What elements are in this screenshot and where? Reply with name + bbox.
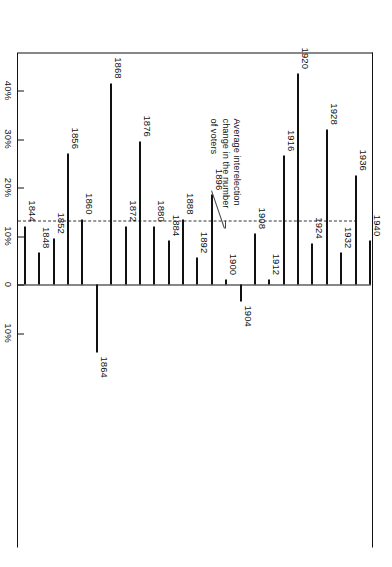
bar-year-label: 1852	[56, 212, 67, 234]
bar-year-label: 1912	[271, 253, 282, 275]
bar-year-label: 1928	[329, 103, 340, 125]
bar-year-label: 1856	[70, 127, 81, 149]
axis-tick-label: 20%	[3, 177, 14, 197]
bar-year-label: 1892	[200, 231, 211, 253]
bar	[326, 129, 328, 284]
bar	[110, 83, 112, 284]
frame-left-border	[18, 52, 373, 53]
bar	[369, 240, 371, 284]
bar-year-label: 1888	[185, 193, 196, 215]
bar	[139, 141, 141, 284]
bar	[125, 226, 127, 284]
bar-year-label: 1932	[343, 226, 354, 248]
bar	[67, 153, 69, 284]
bar	[283, 155, 285, 284]
bar	[82, 219, 84, 284]
zero-baseline	[18, 284, 371, 285]
bar	[297, 73, 299, 284]
bar	[38, 252, 40, 284]
bar-year-label: 1884	[171, 214, 182, 236]
bar	[24, 226, 26, 284]
axis-tick-label: 30%	[3, 129, 14, 149]
bar-year-label: 1924	[315, 217, 326, 239]
bar-year-label: 1880	[156, 200, 167, 222]
axis-tick-label: 0	[3, 281, 14, 286]
bar-year-label: 1904	[243, 305, 254, 327]
chart-figure: 40%30%20%10%010%184418481852185618601864…	[0, 0, 392, 567]
bar	[53, 238, 55, 284]
bar	[240, 284, 242, 301]
bar-year-label: 1860	[85, 193, 96, 215]
bar-year-label: 1844	[27, 200, 38, 222]
axis-tick-label: 10%	[3, 323, 14, 343]
axis-tick	[18, 333, 24, 334]
axis-tick	[18, 139, 24, 140]
frame-top-border	[372, 52, 373, 547]
bar	[254, 233, 256, 284]
bar-year-label: 1876	[142, 115, 153, 137]
bar	[340, 252, 342, 284]
bar	[182, 219, 184, 284]
bar	[153, 226, 155, 284]
bar	[225, 279, 227, 284]
bar-year-label: 1848	[41, 226, 52, 248]
bar-year-label: 1908	[257, 207, 268, 229]
bar-year-label: 1936	[358, 149, 369, 171]
bar	[268, 279, 270, 284]
bar-year-label: 1920	[300, 47, 311, 69]
bar-year-label: 1868	[113, 57, 124, 79]
annotation-leader-segment-2	[225, 220, 226, 228]
axis-tick	[18, 90, 24, 91]
bar	[168, 240, 170, 284]
bar-year-label: 1864	[99, 356, 110, 378]
bar-year-label: 1900	[228, 253, 239, 275]
value-axis-line	[17, 52, 18, 547]
bar-year-label: 1916	[286, 129, 297, 151]
bar	[355, 175, 357, 284]
bar	[312, 243, 314, 284]
bar-year-label: 1940	[372, 214, 383, 236]
chart-plot-area: 40%30%20%10%010%184418481852185618601864…	[0, 0, 392, 567]
axis-tick-label: 10%	[3, 226, 14, 246]
axis-tick-label: 40%	[3, 80, 14, 100]
bar	[96, 284, 98, 352]
bar	[197, 257, 199, 284]
bar-year-label: 1872	[128, 200, 139, 222]
axis-tick	[18, 187, 24, 188]
